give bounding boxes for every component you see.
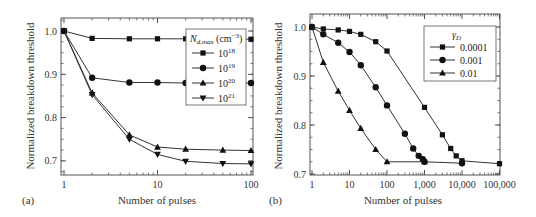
data-point [440, 132, 445, 137]
x-tick-label: 1,000 [413, 179, 436, 190]
legend-b: γD 0.00010.0010.01 [424, 26, 496, 81]
square-marker-icon [440, 44, 445, 49]
panel-label-a: (a) [22, 194, 35, 207]
legend-a: Nd,max (cm−3) 1018101910201021 [186, 29, 246, 105]
y-tick-label: 0.9 [45, 69, 58, 80]
circle-marker-icon [200, 65, 206, 71]
y-axis-title-b: Normalized breakdown threshold [272, 22, 284, 170]
data-point [358, 32, 363, 37]
data-point [346, 49, 352, 55]
legend-label: 0.01 [460, 68, 478, 79]
data-point [410, 145, 416, 151]
data-point [454, 153, 459, 158]
data-point [422, 105, 427, 110]
chart-panel-b: 0.70.80.91.0 1101001,00010,000100,000 No… [269, 14, 516, 207]
x-tick-label: 100 [380, 179, 395, 190]
circle-marker-icon [439, 57, 445, 63]
data-point [155, 36, 160, 41]
y-tick-label: 0.9 [294, 71, 307, 82]
x-tick-label: 100,000 [483, 179, 516, 190]
data-point [90, 36, 95, 41]
data-point [89, 75, 95, 81]
legend-label: 0.0001 [460, 42, 488, 53]
data-point [335, 39, 341, 45]
x-tick-label: 10 [345, 179, 355, 190]
data-point [358, 62, 364, 68]
y-tick-label: 1.0 [45, 26, 58, 37]
data-point [459, 160, 465, 166]
data-point [320, 31, 326, 37]
data-point [336, 27, 341, 32]
data-point [448, 146, 453, 151]
data-point [402, 131, 408, 137]
data-point [127, 36, 132, 41]
data-point [347, 29, 352, 34]
x-tick-label: 1 [310, 179, 315, 190]
data-point [384, 102, 390, 108]
x-axis-title-a: Number of pulses [118, 194, 196, 206]
y-axis-title-a: Normalized breakdown threshold [24, 22, 36, 170]
y-tick-label: 0.8 [45, 112, 58, 123]
legend-label: 0.001 [460, 55, 483, 66]
data-point [321, 26, 326, 31]
data-point [320, 59, 327, 65]
data-point [248, 37, 253, 42]
y-tick-label: 0.7 [45, 155, 58, 166]
y-tick-label: 0.8 [294, 120, 307, 131]
data-point [126, 137, 133, 143]
square-marker-icon [200, 50, 205, 55]
data-point [154, 143, 161, 149]
data-point [373, 39, 378, 44]
chart-panel-a: 0.70.80.91.0 110100 Normalized breakdown… [22, 18, 259, 207]
data-point [126, 79, 132, 85]
data-point [154, 79, 160, 85]
x-tick-label: 1 [62, 179, 67, 190]
data-point [357, 125, 364, 131]
data-point [346, 107, 353, 113]
x-tick-label: 10 [153, 179, 163, 190]
x-axis-title-b: Number of pulses [364, 194, 442, 206]
panel-label-b: (b) [269, 194, 282, 207]
x-tick-label: 10,000 [448, 179, 476, 190]
y-tick-label: 1.0 [294, 22, 307, 33]
data-point [373, 84, 379, 90]
y-tick-label: 0.7 [294, 169, 307, 180]
x-tick-label: 100 [244, 179, 259, 190]
data-point [335, 88, 342, 94]
data-point [384, 48, 389, 53]
figure: 0.70.80.91.0 110100 Normalized breakdown… [0, 0, 536, 217]
data-point [248, 80, 254, 86]
data-point [497, 161, 502, 166]
